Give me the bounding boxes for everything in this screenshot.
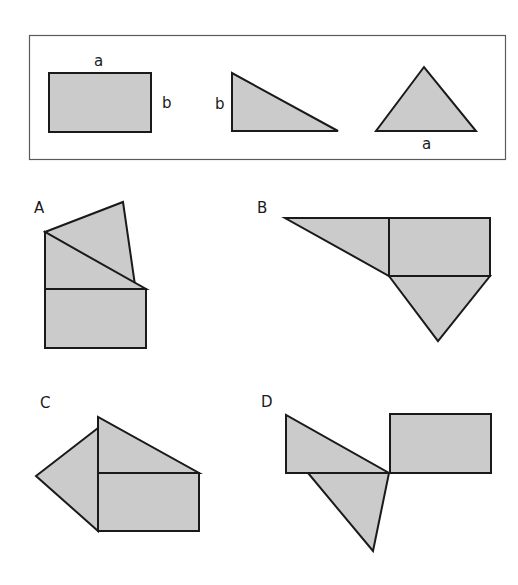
legend-rect-label-a: a	[94, 52, 103, 70]
option-b-isosceles-triangle	[389, 276, 490, 341]
legend-rectangle	[49, 73, 151, 132]
option-a-label: A	[34, 199, 45, 217]
option-c-isosceles-triangle	[36, 428, 98, 531]
option-b-rectangle	[389, 218, 490, 276]
puzzle-diagram: a b b a A B C D	[0, 0, 518, 585]
legend-isosceles-triangle	[376, 67, 476, 131]
legend-right-triangle-label-b: b	[215, 95, 225, 113]
option-c-rectangle	[98, 473, 199, 531]
legend-isosceles-label-a: a	[422, 135, 431, 153]
option-b-right-triangle	[285, 218, 389, 276]
option-d-isosceles-triangle	[308, 473, 389, 551]
legend-rect-label-b: b	[162, 94, 172, 112]
option-d-label: D	[261, 393, 273, 411]
option-d[interactable]: D	[261, 393, 491, 551]
option-c-right-triangle	[98, 417, 199, 473]
option-a-rectangle	[45, 289, 146, 348]
option-b[interactable]: B	[257, 199, 490, 341]
option-d-rectangle	[390, 414, 491, 473]
option-c-label: C	[40, 394, 50, 412]
option-d-right-triangle	[286, 415, 389, 473]
option-c[interactable]: C	[36, 394, 199, 531]
legend-box: a b b a	[30, 36, 506, 160]
legend-right-triangle	[232, 73, 338, 131]
option-a[interactable]: A	[34, 199, 146, 348]
option-b-label: B	[257, 199, 267, 217]
